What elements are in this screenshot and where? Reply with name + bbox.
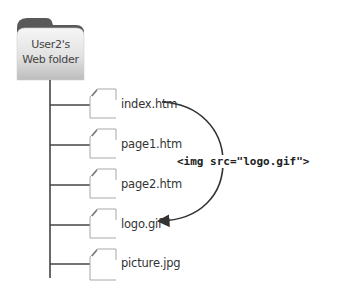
file-label-index: index.htm [121, 97, 177, 111]
file-label-logo: logo.gif [121, 217, 162, 231]
folder-label: User2's Web folder [17, 37, 84, 67]
file-label-page2: page2.htm [121, 177, 182, 191]
file-icon-page2 [90, 169, 116, 198]
file-icon-index [90, 89, 116, 118]
file-icon-page1 [90, 129, 116, 158]
folder-label-line1: User2's [17, 37, 84, 52]
file-label-picture: picture.jpg [121, 256, 180, 270]
file-icon-picture [90, 249, 116, 280]
folder-label-line2: Web folder [17, 52, 84, 67]
img-tag-code-label: <img src="logo.gif"> [176, 155, 310, 168]
diagram-canvas: User2's Web folder index.htm page1.htm p… [0, 0, 341, 293]
file-label-page1: page1.htm [121, 137, 182, 151]
tree-branches [50, 105, 90, 264]
file-icon-logo [90, 209, 116, 238]
